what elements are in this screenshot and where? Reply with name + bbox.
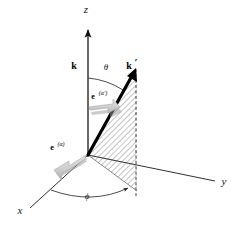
e-alpha-label-base: e	[50, 143, 54, 152]
k-incident-label: k	[71, 60, 77, 71]
e-alpha-label-group: e (α)	[50, 141, 64, 152]
scattering-plane	[88, 69, 137, 196]
e-alpha-polarization-arrow	[54, 155, 87, 181]
e-alpha-prime-label-base: e	[91, 92, 95, 101]
e-alpha-prime-label-group: e (α′)	[91, 90, 107, 101]
phi-label: ϕ	[85, 191, 90, 201]
e-alpha-label-superscript: (α)	[57, 141, 64, 148]
e-alpha-arrow-body	[54, 155, 86, 179]
z-axis-label: z	[83, 3, 89, 15]
theta-arc	[88, 78, 123, 90]
phi-angle-arc	[51, 188, 128, 197]
k-prime-label: k	[126, 60, 132, 71]
e-alpha-prime-label-superscript: (α′)	[99, 90, 107, 97]
k-prime-mark: ′	[135, 57, 138, 68]
theta-angle-arc	[88, 78, 123, 90]
phi-arc	[51, 188, 128, 197]
theta-label: θ	[104, 62, 109, 72]
scattering-geometry-figure: z x y k k ′ θ ϕ e (α) e (α′)	[0, 0, 242, 228]
figure-canvas: z x y k k ′ θ ϕ e (α) e (α′)	[0, 0, 242, 228]
y-axis-label: y	[221, 175, 227, 187]
x-axis-label: x	[17, 204, 23, 216]
